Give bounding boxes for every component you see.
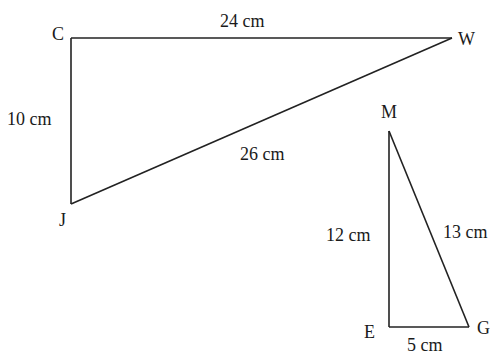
vertex-label-g: G [477, 318, 490, 338]
diagram-canvas: C W J 24 cm 10 cm 26 cm M E G 12 cm 13 c… [0, 0, 502, 361]
triangle-cwj: C W J 24 cm 10 cm 26 cm [7, 11, 475, 230]
side-label-cw: 24 cm [220, 11, 265, 31]
vertex-label-m: M [381, 102, 397, 122]
side-label-me: 12 cm [326, 225, 371, 245]
vertex-label-j: J [59, 210, 66, 230]
side-label-jw: 26 cm [240, 144, 285, 164]
side-label-eg: 5 cm [407, 335, 443, 355]
vertex-label-w: W [458, 29, 475, 49]
triangle-meg: M E G 12 cm 13 cm 5 cm [326, 102, 490, 355]
side-label-cj: 10 cm [7, 109, 52, 129]
vertex-label-e: E [364, 322, 375, 342]
vertex-label-c: C [52, 24, 64, 44]
side-label-mg: 13 cm [443, 222, 488, 242]
